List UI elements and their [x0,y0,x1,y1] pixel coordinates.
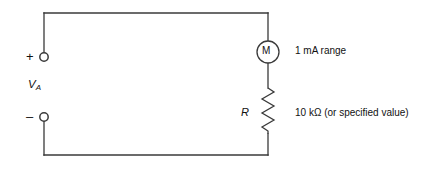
source-voltage-subscript: A [36,83,42,92]
resistor-value-label: 10 kΩ (or specified value) [295,107,409,119]
resistor-designator-label: R [241,106,249,118]
meter-range-label: 1 mA range [295,45,346,57]
source-voltage-symbol: V [28,78,36,90]
source-voltage-label: VA [28,78,41,94]
resistor-zigzag [262,88,274,134]
meter-symbol-label: M [262,45,271,57]
negative-terminal-label: – [26,110,33,123]
terminal-negative-post [40,113,48,121]
positive-terminal-label: + [26,50,34,63]
circuit-schematic-svg [0,0,424,180]
circuit-diagram: + – VA M 1 mA range R 10 kΩ (or specifie… [0,0,424,180]
terminal-positive-post [40,53,48,61]
